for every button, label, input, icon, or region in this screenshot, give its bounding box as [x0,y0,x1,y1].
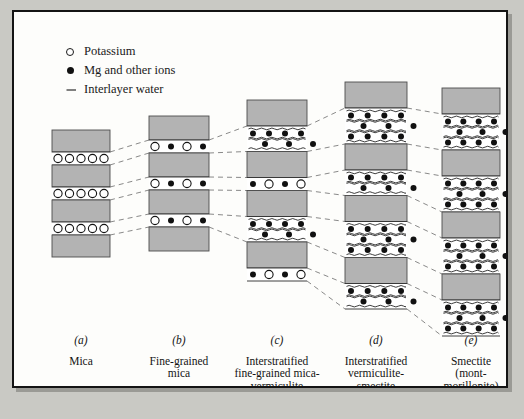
column-name-line: smectite [321,380,431,387]
column-name-line: vermiculite- [321,367,431,380]
figure-panel: Potassium Mg and other ions Interlayer w… [12,10,508,388]
column-label-2: (b)Fine-grainedmica [124,334,234,380]
column-name-line: vermiculite [222,380,332,387]
column-index: (c) [222,334,332,347]
clay-mineral-diagram [14,12,506,386]
column-label-3: (c)Interstratifiedfine-grained mica-verm… [222,334,332,386]
column-label-1: (a)Mica [26,334,136,367]
column-name-line: Smectite [416,355,506,368]
column-index: (d) [321,334,431,347]
figure-root: Potassium Mg and other ions Interlayer w… [0,0,524,419]
column-name-line: Interstratified [321,355,431,368]
column-name-line: Interstratified [222,355,332,368]
column-labels: (a)Mica(b)Fine-grainedmica(c)Interstrati… [14,334,506,386]
column-name-line: mica [124,367,234,380]
column-name-line: (mont- [416,367,506,380]
column-index: (e) [416,334,506,347]
column-label-5: (e)Smectite(mont-morillonite) [416,334,506,386]
column-name-line: fine-grained mica- [222,367,332,380]
column-name-line: Mica [26,355,136,368]
column-index: (a) [26,334,136,347]
column-name-line: morillonite) [416,380,506,387]
column-index: (b) [124,334,234,347]
column-label-4: (d)Interstratifiedvermiculite-smectite [321,334,431,386]
column-name-line: Fine-grained [124,355,234,368]
